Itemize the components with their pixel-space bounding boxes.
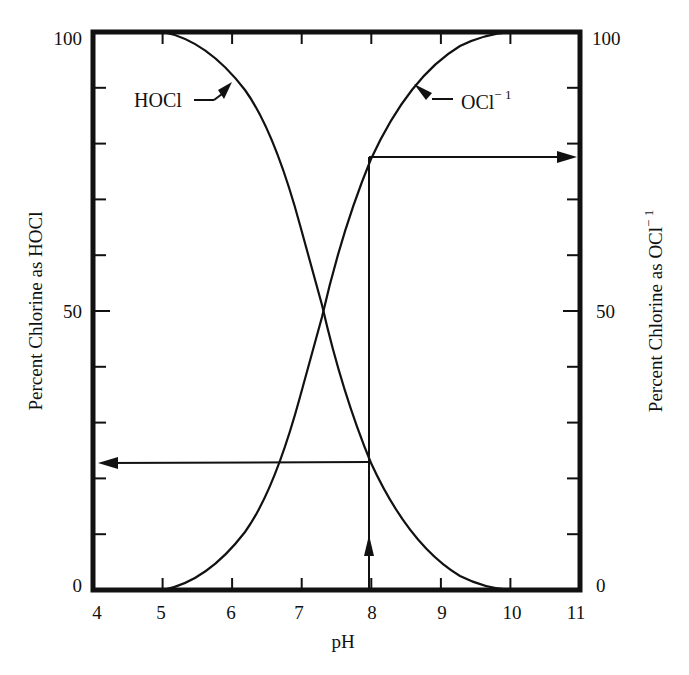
hocl-label: HOCl xyxy=(134,89,182,111)
y-right-title-sup: − 1 xyxy=(641,210,656,227)
y-right-tick-50: 50 xyxy=(596,301,615,322)
x-tick-10: 10 xyxy=(503,602,522,623)
y-right-axis-title: Percent Chlorine as OCl− 1 xyxy=(641,210,666,412)
right-arrowhead-icon xyxy=(557,151,577,163)
x-tick-7: 7 xyxy=(294,602,304,623)
y-left-tick-50: 50 xyxy=(63,301,82,322)
x-axis-title: pH xyxy=(331,631,355,652)
hocl-pointer xyxy=(194,82,232,100)
ocl-curve xyxy=(163,32,511,590)
x-tick-6: 6 xyxy=(226,602,236,623)
x-tick-8: 8 xyxy=(367,602,377,623)
chart-svg: HOCl OCl− 1 100 50 0 100 50 0 4 5 6 7 8 … xyxy=(0,0,689,675)
hocl-curve xyxy=(163,32,511,590)
x-tick-4: 4 xyxy=(92,602,102,623)
hocl-reading-line xyxy=(104,462,369,463)
y-left-tick-100: 100 xyxy=(54,28,83,49)
y-right-tick-0: 0 xyxy=(596,575,606,596)
y-right-title-main: Percent Chlorine as OCl xyxy=(645,227,666,412)
x-tick-11: 11 xyxy=(567,602,585,623)
ocl-label: OCl− 1 xyxy=(461,87,511,113)
left-arrowhead-icon xyxy=(98,457,118,469)
y-left-axis-title: Percent Chlorine as HOCl xyxy=(25,212,46,411)
ocl-label-main: OCl xyxy=(461,91,495,113)
y-right-tick-100: 100 xyxy=(592,28,621,49)
x-tick-9: 9 xyxy=(437,602,447,623)
y-left-tick-0: 0 xyxy=(73,575,83,596)
x-tick-5: 5 xyxy=(156,602,166,623)
plot-frame xyxy=(93,32,580,590)
left-y-ticks xyxy=(93,88,110,534)
ocl-label-sup: − 1 xyxy=(494,87,511,102)
ph8-up-arrowhead-icon xyxy=(364,535,374,556)
ocl-pointer xyxy=(414,84,453,100)
